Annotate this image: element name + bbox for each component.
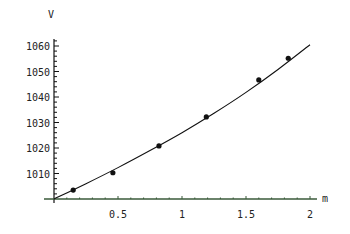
plot-area: [54, 45, 310, 199]
x-axis-label: m: [322, 193, 328, 204]
y-tick-label: 1030: [26, 118, 50, 129]
y-tick-label: 1020: [26, 143, 50, 154]
x-tick-label: 2: [307, 209, 313, 220]
y-tick-label: 1040: [26, 92, 50, 103]
x-tick-label: 1.5: [237, 209, 255, 220]
fit-curve: [54, 45, 310, 199]
x-tick-label: 1: [179, 209, 185, 220]
y-axis: 101010201030104010501060: [26, 39, 59, 203]
y-tick-label: 1060: [26, 41, 50, 52]
y-tick-label: 1050: [26, 67, 50, 78]
x-tick-label: 0.5: [109, 209, 127, 220]
y-tick-label: 1010: [26, 169, 50, 180]
x-axis: 0.511.52: [44, 196, 317, 220]
y-axis-label: V: [48, 9, 54, 20]
chart: 101010201030104010501060 0.511.52 V m: [0, 0, 350, 234]
